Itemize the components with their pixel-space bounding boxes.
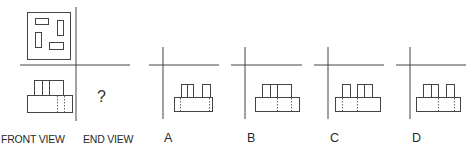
front-view	[28, 81, 73, 113]
front-view-label: FRONT VIEW	[1, 133, 65, 145]
option-d-figure[interactable]	[396, 47, 466, 119]
option-c-figure[interactable]	[314, 47, 384, 119]
option-b-figure[interactable]	[231, 47, 302, 119]
option-c-label[interactable]: C	[330, 131, 339, 145]
option-a-label[interactable]: A	[164, 131, 172, 145]
end-view-label: END VIEW	[83, 133, 133, 145]
diagram-canvas	[0, 0, 473, 151]
top-view	[28, 13, 71, 60]
option-d-label[interactable]: D	[412, 131, 421, 145]
end-view-question-mark: ?	[97, 88, 106, 106]
option-b-label[interactable]: B	[247, 131, 255, 145]
option-a-figure[interactable]	[149, 47, 219, 119]
